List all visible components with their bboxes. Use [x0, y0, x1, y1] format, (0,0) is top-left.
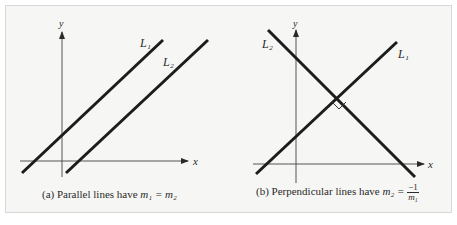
x-axis-label: x — [427, 158, 433, 170]
panel-b: x y L₁ L₂ — [253, 18, 433, 183]
label-l2: L₂ — [162, 55, 174, 69]
caption-a-math: m₁ = m₂ — [140, 188, 176, 200]
fraction-denominator: m₁ — [407, 193, 419, 202]
caption-b-text: (b) Perpendicular lines have — [256, 185, 382, 197]
label-l1: L₁ — [139, 36, 151, 50]
y-axis-label: y — [58, 18, 64, 29]
label-l2: L₂ — [261, 37, 273, 51]
y-axis-label: y — [292, 18, 298, 29]
caption-b-fraction: −1 m₁ — [407, 183, 419, 202]
caption-b: (b) Perpendicular lines have m₂ = −1 m₁ — [256, 183, 419, 202]
line-l2 — [66, 40, 208, 173]
label-l1: L₁ — [397, 47, 409, 61]
caption-a: (a) Parallel lines have m₁ = m₂ — [42, 188, 177, 200]
caption-b-lhs: m₂ = — [382, 185, 404, 197]
caption-a-text: (a) Parallel lines have — [42, 188, 140, 200]
panel-a: x y L₁ L₂ — [20, 18, 208, 177]
line-l2 — [268, 30, 415, 177]
line-l1 — [256, 42, 397, 174]
x-axis-label: x — [192, 155, 198, 167]
line-l1 — [22, 40, 163, 173]
